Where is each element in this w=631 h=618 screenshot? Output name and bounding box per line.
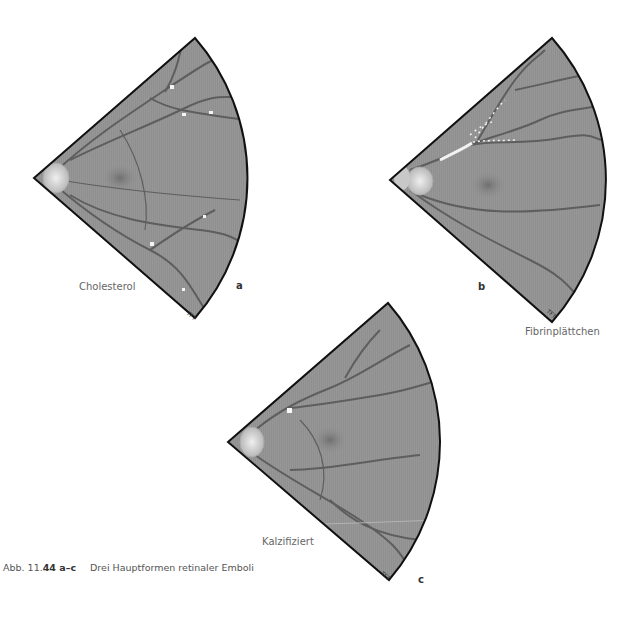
panel-c-letter: c (418, 574, 424, 585)
panel-c-label: Kalzifiziert (262, 536, 314, 547)
fundus-sector-a: TFT (34, 38, 250, 322)
panel-a-label: Cholesterol (79, 281, 135, 292)
caption-text: Drei Hauptformen retinaler Emboli (90, 562, 254, 573)
fundus-sector-b: TFT (390, 38, 606, 322)
figure-illustrations: TFT TFT (0, 0, 631, 618)
figure-caption: Abb. 11.44 a–cDrei Hauptformen retinaler… (3, 562, 254, 573)
panel-b-letter: b (478, 281, 485, 292)
embolus-calcified (287, 408, 292, 413)
caption-prefix: Abb. 11. (3, 562, 43, 573)
panel-a-letter: a (236, 280, 243, 291)
fundus-sector-c: TFT (228, 303, 440, 582)
caption-number: 44 a–c (43, 562, 76, 573)
panel-b-label: Fibrinplättchen (525, 326, 600, 337)
